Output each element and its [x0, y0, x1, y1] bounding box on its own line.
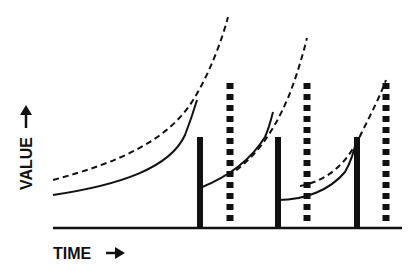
y-axis-label: VALUE [18, 137, 35, 190]
solid-bar-3 [354, 137, 360, 229]
dashed-curve-2 [228, 38, 307, 176]
solid-curve-3 [278, 137, 357, 200]
solid-bar-1 [197, 137, 203, 229]
arrow-up-icon [20, 105, 32, 128]
diagram-canvas: VALUE TIME [0, 0, 414, 274]
x-axis-label-group: TIME [53, 245, 125, 262]
arrow-right-icon [106, 247, 125, 259]
dashed-curve-3 [300, 80, 386, 186]
solid-curve-2 [200, 112, 273, 188]
solid-curve-1 [53, 100, 197, 195]
solid-bar-2 [275, 137, 281, 229]
solid-bars [197, 137, 360, 229]
y-axis-label-group: VALUE [18, 105, 35, 190]
x-axis-label: TIME [53, 245, 92, 262]
dashed-curves [53, 17, 386, 186]
solid-curves [53, 100, 357, 200]
